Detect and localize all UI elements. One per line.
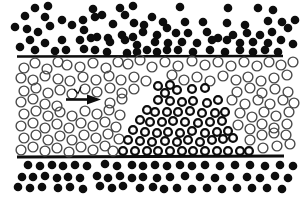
diagram-svg (0, 0, 303, 206)
bold-circles-group (119, 81, 253, 155)
arrow-tick-mark (74, 87, 81, 94)
filled-dots-bottom-group (14, 160, 298, 194)
filled-dots-top-group (11, 2, 300, 58)
open-circles-group (16, 55, 299, 157)
membrane-top-line (17, 56, 283, 57)
membrane-bottom-line (17, 156, 284, 157)
diffusion-diagram-figure (0, 0, 303, 206)
